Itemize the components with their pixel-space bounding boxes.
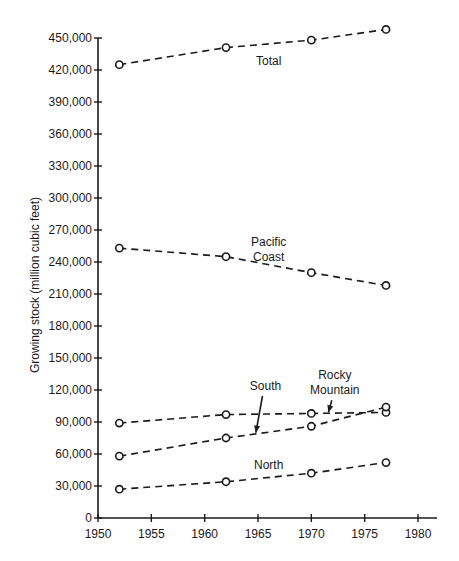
series-north (116, 459, 390, 493)
x-tick-label: 1960 (191, 527, 218, 541)
label-total: Total (256, 54, 281, 68)
arrowhead-icon (327, 405, 333, 413)
arrowhead-icon (254, 425, 260, 432)
y-tick-label: 360,000 (49, 127, 93, 141)
data-point-marker (308, 423, 315, 430)
y-tick-label: 0 (85, 511, 92, 525)
y-axis-title: Growing stock (million cubic feet) (28, 197, 42, 373)
y-tick-label: 450,000 (49, 31, 93, 45)
data-point-marker (382, 282, 389, 289)
y-axis-title-group: Growing stock (million cubic feet) (28, 197, 42, 373)
series-label-text: Total (256, 54, 281, 68)
data-point-marker (222, 478, 229, 485)
y-tick-label: 240,000 (49, 255, 93, 269)
data-point-marker (308, 470, 315, 477)
series-labels: TotalPacificCoastSouthRockyMountainNorth (250, 54, 360, 472)
y-tick-label: 330,000 (49, 159, 93, 173)
data-point-marker (222, 411, 229, 418)
data-point-marker (116, 419, 123, 426)
y-tick-label: 90,000 (55, 415, 92, 429)
data-point-marker (382, 26, 389, 33)
data-point-marker (116, 245, 123, 252)
series-label-text: Coast (253, 250, 285, 264)
label-pacific-coast: PacificCoast (251, 235, 286, 264)
x-tick-label: 1965 (245, 527, 272, 541)
series-line (119, 29, 386, 64)
series-label-text: South (250, 379, 281, 393)
series-rocky-mountain (116, 409, 390, 427)
growing-stock-line-chart: Growing stock (million cubic feet) 030,0… (0, 0, 459, 561)
y-tick-label: 300,000 (49, 191, 93, 205)
label-rocky-mountain: RockyMountain (310, 368, 359, 412)
series-label-text: North (254, 458, 283, 472)
axes: 030,00060,00090,000120,000150,000180,000… (49, 31, 437, 541)
data-point-marker (116, 61, 123, 68)
y-tick-label: 390,000 (49, 95, 93, 109)
data-point-marker (382, 459, 389, 466)
data-point-marker (308, 37, 315, 44)
data-point-marker (116, 453, 123, 460)
series-label-text: Rocky (318, 368, 351, 382)
series-label-text: Pacific (251, 235, 286, 249)
x-tick-label: 1980 (405, 527, 432, 541)
series-line (119, 463, 386, 490)
data-point-marker (308, 269, 315, 276)
x-tick-label: 1955 (138, 527, 165, 541)
data-point-marker (222, 44, 229, 51)
data-point-marker (222, 253, 229, 260)
data-point-marker (382, 403, 389, 410)
y-tick-label: 420,000 (49, 63, 93, 77)
data-point-marker (222, 434, 229, 441)
label-south: South (250, 379, 281, 433)
y-tick-label: 180,000 (49, 319, 93, 333)
y-tick-label: 210,000 (49, 287, 93, 301)
y-tick-label: 270,000 (49, 223, 93, 237)
series-total (116, 26, 390, 68)
data-point-marker (308, 410, 315, 417)
series-south (116, 403, 390, 459)
series-label-text: Mountain (310, 383, 359, 397)
label-north: North (254, 458, 283, 472)
y-tick-label: 30,000 (55, 479, 92, 493)
x-tick-label: 1950 (85, 527, 112, 541)
x-tick-label: 1975 (351, 527, 378, 541)
y-tick-label: 60,000 (55, 447, 92, 461)
data-point-marker (116, 486, 123, 493)
y-tick-label: 120,000 (49, 383, 93, 397)
x-tick-label: 1970 (298, 527, 325, 541)
y-tick-label: 150,000 (49, 351, 93, 365)
